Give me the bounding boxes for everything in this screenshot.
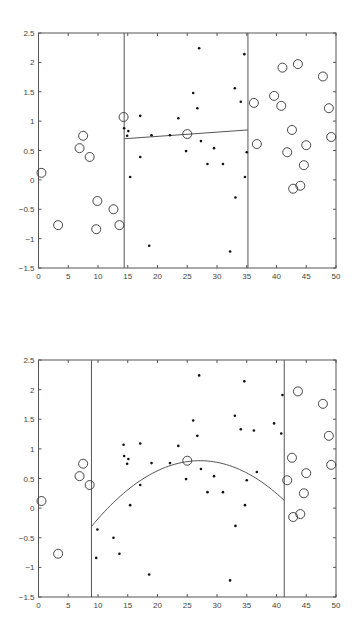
data-point-dot [213, 475, 216, 478]
fit-curve [91, 461, 284, 527]
data-point-circle [318, 399, 327, 408]
y-tick-label: 2.5 [23, 29, 35, 38]
data-point-dot [150, 462, 153, 465]
data-point-dot [96, 528, 99, 531]
data-point-dot [129, 504, 132, 507]
data-point-dot [206, 491, 209, 494]
data-point-dot [169, 134, 172, 137]
x-tick-label: 35 [242, 601, 251, 610]
data-point-circle [277, 101, 286, 110]
data-point-circle [327, 132, 336, 141]
data-point-circle [252, 140, 261, 149]
data-point-dot [200, 468, 203, 471]
data-point-dot [123, 127, 126, 130]
y-tick-label: −1.5 [19, 264, 35, 273]
data-point-dot [185, 150, 188, 153]
data-point-dot [281, 394, 284, 397]
data-point-circle [296, 181, 305, 190]
data-point-dot [127, 458, 130, 461]
data-point-circle [299, 161, 308, 170]
data-point-dot [198, 47, 201, 50]
data-point-dot [256, 471, 259, 474]
data-point-circle [249, 98, 258, 107]
data-point-circle [287, 125, 296, 134]
data-point-circle [293, 60, 302, 69]
y-tick-label: 1 [30, 445, 35, 454]
data-point-dot [243, 53, 246, 56]
chart-top: 05101520253035404550−1.5−1−0.500.511.522… [0, 0, 362, 322]
data-point-dot [243, 380, 246, 383]
data-point-dot [177, 117, 180, 120]
x-tick-label: 40 [272, 272, 281, 281]
x-tick-label: 50 [332, 601, 341, 610]
y-tick-label: 0.5 [23, 147, 35, 156]
data-point-dot [253, 429, 256, 432]
data-point-circle [115, 221, 124, 230]
x-tick-label: 25 [183, 272, 192, 281]
data-point-dot [148, 244, 151, 247]
data-point-circle [299, 489, 308, 498]
data-point-dot [95, 557, 98, 560]
data-point-dot [245, 151, 248, 154]
x-tick-label: 15 [123, 601, 132, 610]
x-tick-label: 30 [213, 601, 222, 610]
data-point-circle [54, 549, 63, 558]
data-point-dot [244, 176, 247, 179]
data-point-circle [75, 144, 84, 153]
data-point-dot [222, 491, 225, 494]
data-point-circle [278, 63, 287, 72]
x-tick-label: 5 [66, 272, 71, 281]
data-point-dot [169, 462, 172, 465]
x-tick-label: 20 [153, 272, 162, 281]
data-point-dot [185, 478, 188, 481]
data-point-circle [119, 113, 128, 122]
data-point-dot [112, 536, 115, 539]
data-point-circle [85, 152, 94, 161]
data-point-circle [302, 469, 311, 478]
data-point-dot [139, 115, 142, 118]
data-point-dot [273, 422, 276, 425]
data-point-dot [234, 87, 237, 90]
y-tick-label: 2.5 [23, 356, 35, 365]
y-tick-label: 0 [30, 504, 35, 513]
y-tick-label: 0.5 [23, 475, 35, 484]
data-point-circle [324, 431, 333, 440]
data-point-circle [289, 513, 298, 522]
y-tick-label: 0 [30, 176, 35, 185]
data-point-dot [245, 479, 248, 482]
x-tick-label: 0 [36, 272, 41, 281]
data-point-dot [200, 140, 203, 143]
x-tick-label: 0 [36, 601, 41, 610]
data-point-dot [139, 484, 142, 487]
y-tick-label: 2 [30, 386, 35, 395]
data-point-dot [139, 156, 142, 159]
chart-bottom: 05101520253035404550−1.5−1−0.500.511.522… [0, 322, 362, 644]
y-tick-label: −0.5 [19, 205, 35, 214]
x-tick-label: 45 [302, 601, 311, 610]
data-point-dot [122, 443, 125, 446]
y-tick-label: −1.5 [19, 593, 35, 602]
data-point-dot [139, 442, 142, 445]
data-point-dot [234, 196, 237, 199]
x-tick-label: 5 [66, 601, 71, 610]
data-point-circle [293, 387, 302, 396]
y-tick-label: −1 [25, 563, 35, 572]
data-point-circle [296, 510, 305, 519]
data-point-dot [123, 455, 126, 458]
data-point-dot [127, 130, 130, 133]
data-point-dot [192, 419, 195, 422]
data-point-dot [196, 435, 199, 438]
y-tick-label: 1.5 [23, 88, 35, 97]
data-point-circle [287, 453, 296, 462]
data-point-circle [318, 72, 327, 81]
data-point-dot [192, 92, 195, 95]
x-tick-label: 40 [272, 601, 281, 610]
x-tick-label: 10 [94, 272, 103, 281]
data-point-circle [109, 205, 118, 214]
data-point-dot [244, 504, 247, 507]
y-tick-label: −1 [25, 235, 35, 244]
data-point-dot [148, 573, 151, 576]
data-point-circle [92, 225, 101, 234]
x-tick-label: 10 [94, 601, 103, 610]
data-point-dot [177, 445, 180, 448]
